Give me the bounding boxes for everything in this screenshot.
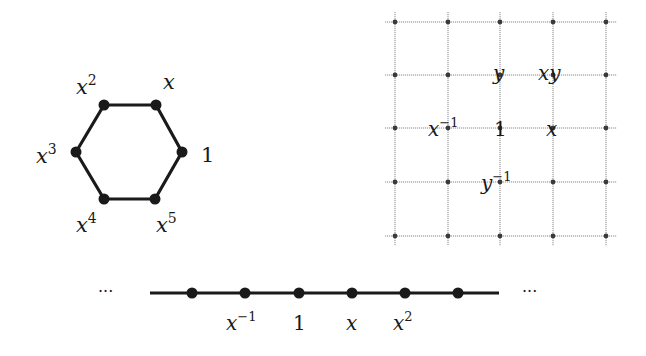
line-label-x2-base: x [393,311,404,335]
line-vertex-x2 [400,288,411,299]
line-label-x2-exp: 2 [404,309,412,324]
line-vertex-x-2 [187,288,198,299]
vertex-x [151,100,162,111]
label-1: 1 [201,143,214,167]
label-x4-exp: 4 [88,210,97,226]
grid-label-x-inverse-base: x [428,117,439,141]
label-x3-base: x [36,144,48,168]
line-label-1: 1 [293,311,306,335]
cayley-graphs-figure: 1 x x2 x3 x4 x5 [0,0,646,356]
label-x3: x3 [36,141,57,168]
label-x5: x5 [156,210,177,237]
line-vertex-x [347,288,358,299]
grid-label-x: x [546,117,557,141]
grid-label-x-inverse: x−1 [428,115,458,141]
grid-label-y-inverse-base: y [480,171,493,195]
vertex-x3 [71,147,82,158]
grid-label-1: 1 [494,117,507,141]
label-x2-exp: 2 [88,72,97,88]
label-x2: x2 [76,72,97,99]
label-x3-exp: 3 [48,141,57,157]
line-diagram: ··· ··· x−1 1 x x2 [98,282,537,335]
grid-label-xy: xy [538,61,561,85]
ellipsis-right: ··· [522,282,537,301]
line-vertex-x-inverse [240,288,251,299]
line-label-x2: x2 [393,309,413,335]
label-x4-base: x [76,213,88,237]
line-label-x-inverse-base: x [226,311,237,335]
hexagon-edges [76,105,182,199]
label-x: x [163,70,175,94]
vertex-x4 [99,194,110,205]
label-x5-base: x [156,213,168,237]
grid-diagram: y xy x−1 1 x y−1 [385,12,617,246]
line-label-x: x [346,311,357,335]
line-vertex-x3 [453,288,464,299]
label-x5-exp: 5 [168,210,177,226]
line-label-x-inverse: x−1 [226,309,256,335]
line-label-x-inverse-exp: −1 [237,309,256,324]
line-vertex-1 [294,288,305,299]
grid-label-y: y [492,61,505,85]
ellipsis-left: ··· [98,282,113,301]
vertex-x2 [99,100,110,111]
vertex-x5 [150,194,161,205]
vertex-1 [177,147,188,158]
label-x4: x4 [76,210,97,237]
grid-label-y-inverse-exp: −1 [492,169,511,184]
grid-label-y-inverse: y−1 [480,169,511,195]
hexagon-diagram: 1 x x2 x3 x4 x5 [36,70,214,237]
label-x2-base: x [76,75,88,99]
grid-label-x-inverse-exp: −1 [439,115,458,130]
